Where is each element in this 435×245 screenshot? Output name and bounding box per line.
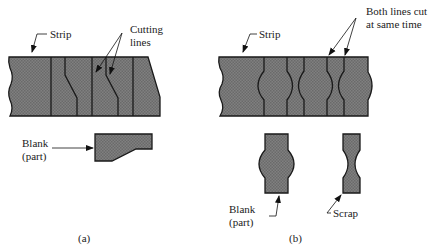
strip-b: [219, 57, 372, 116]
caption-a: (a): [78, 232, 90, 244]
cutting-lines-label-2: lines: [130, 36, 151, 48]
both-lines-leader-1: [329, 18, 356, 55]
strip-a-label: Strip: [50, 28, 71, 40]
caption-b: (b): [289, 232, 302, 244]
both-lines-leader-2: [345, 18, 356, 55]
blank-b-leader: [269, 196, 279, 216]
blank-a-shape: [95, 134, 152, 161]
strip-a: [9, 57, 160, 116]
scrap-label: Scrap: [333, 207, 358, 219]
scrap-shape: [343, 134, 360, 193]
cutting-lines-label-1: Cutting: [130, 23, 163, 35]
strip-a-leader: [32, 34, 47, 52]
strip-b-leader: [243, 34, 257, 52]
blank-b-label-2: (part): [229, 216, 253, 228]
both-lines-label-2: at same time: [366, 18, 422, 30]
both-lines-label-1: Both lines cut: [366, 5, 427, 17]
blank-a-label-1: Blank: [22, 137, 48, 149]
blank-a-label-2: (part): [22, 150, 46, 162]
blank-b-label-1: Blank: [229, 203, 255, 215]
strip-b-label: Strip: [259, 28, 280, 40]
blank-b-shape: [259, 134, 294, 193]
